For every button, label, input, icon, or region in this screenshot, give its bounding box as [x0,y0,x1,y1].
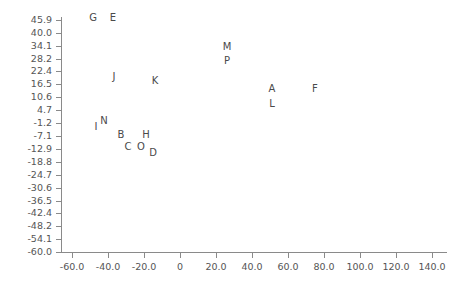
y-tick-label: -30.6 [0,183,52,193]
y-tick-label: -54.1 [0,234,52,244]
y-tick-label: -12.9 [0,144,52,154]
y-tick-mark [56,175,61,176]
y-tick-label: 4.7 [0,105,52,115]
x-tick-label: 140.0 [407,262,457,272]
x-tick-mark [324,253,325,258]
x-tick-mark [72,253,73,258]
x-tick-mark [396,253,397,258]
y-tick-label: 45.9 [0,15,52,25]
data-point-label: M [217,42,237,52]
y-tick-label: -60.0 [0,247,52,257]
x-tick-mark [216,253,217,258]
y-tick-mark [56,149,61,150]
x-tick-mark [360,253,361,258]
x-axis-line [61,252,447,253]
data-point-label: K [145,76,165,86]
y-tick-mark [56,123,61,124]
data-point-label: F [305,84,325,94]
data-point-label: D [143,148,163,158]
y-tick-label: -7.1 [0,131,52,141]
y-tick-mark [56,84,61,85]
data-point-label: J [104,72,124,82]
x-tick-mark [288,253,289,258]
y-tick-label: 22.4 [0,66,52,76]
y-tick-mark [56,239,61,240]
y-tick-label: 16.5 [0,79,52,89]
y-tick-label: -18.8 [0,157,52,167]
y-tick-mark [56,59,61,60]
y-tick-mark [56,110,61,111]
y-tick-mark [56,201,61,202]
y-tick-label: 40.0 [0,28,52,38]
y-tick-label: -42.4 [0,208,52,218]
data-point-label: N [94,116,114,126]
y-tick-mark [56,46,61,47]
scatter-plot: 45.940.034.128.222.416.510.64.7-1.2-7.1-… [0,0,458,285]
y-tick-mark [56,226,61,227]
y-tick-label: 34.1 [0,41,52,51]
data-point-label: B [111,130,131,140]
y-tick-label: 10.6 [0,92,52,102]
y-tick-mark [56,71,61,72]
y-tick-mark [56,33,61,34]
y-tick-mark [56,162,61,163]
y-tick-label: -24.7 [0,170,52,180]
y-tick-label: -48.2 [0,221,52,231]
data-point-label: E [103,13,123,23]
x-tick-mark [432,253,433,258]
y-tick-mark [56,213,61,214]
data-point-label: P [217,56,237,66]
x-tick-mark [108,253,109,258]
y-tick-mark [56,252,61,253]
y-tick-mark [56,97,61,98]
data-point-label: G [83,13,103,23]
x-tick-mark [180,253,181,258]
y-tick-mark [56,188,61,189]
data-point-label: A [262,84,282,94]
y-tick-mark [56,20,61,21]
x-tick-mark [144,253,145,258]
y-axis-line [61,17,62,253]
y-tick-label: 28.2 [0,54,52,64]
y-tick-label: -1.2 [0,118,52,128]
data-point-label: L [262,99,282,109]
y-tick-mark [56,136,61,137]
data-point-label: H [136,130,156,140]
x-tick-mark [252,253,253,258]
y-tick-label: -36.5 [0,196,52,206]
